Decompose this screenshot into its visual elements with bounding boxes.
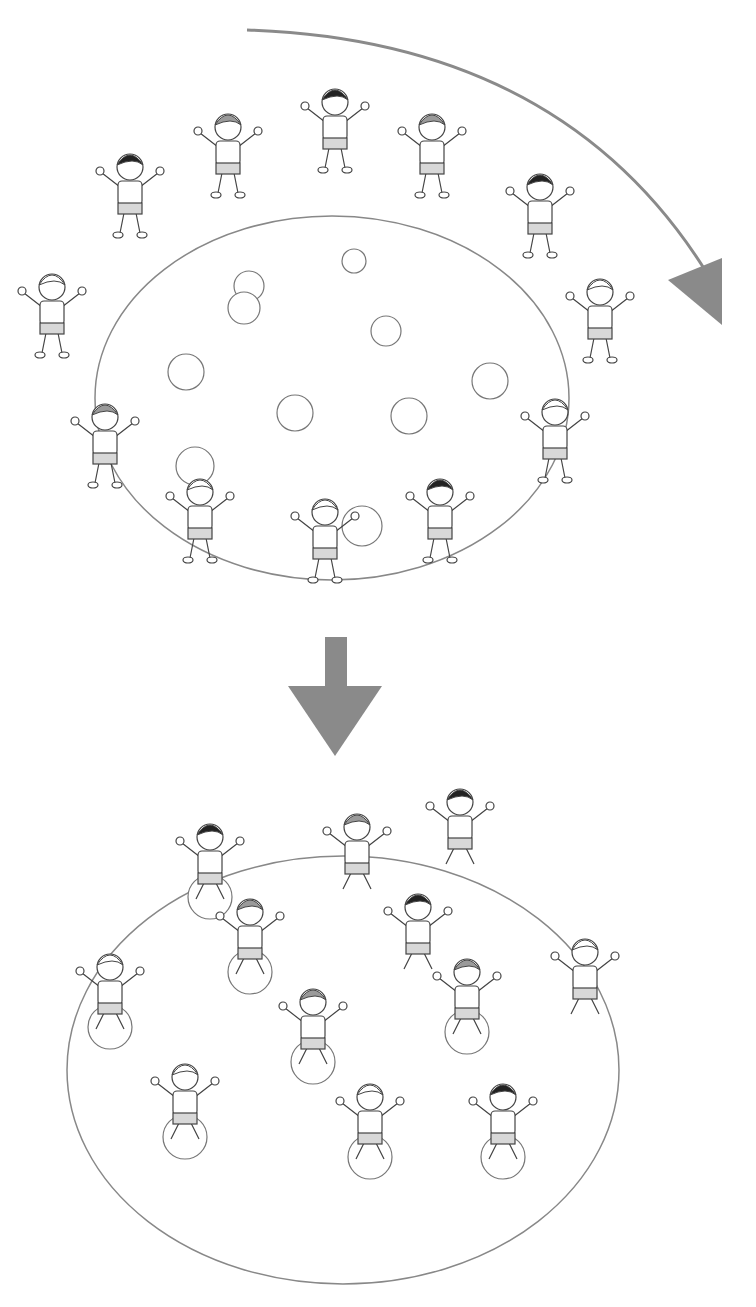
shoe xyxy=(523,252,533,258)
child-figure xyxy=(323,814,391,889)
shoe xyxy=(538,477,548,483)
ball-icon xyxy=(371,316,401,346)
hand xyxy=(458,127,466,135)
legs xyxy=(422,173,442,193)
hand xyxy=(339,1002,347,1010)
child-figure xyxy=(566,279,634,363)
shorts xyxy=(323,138,347,149)
hand xyxy=(76,967,84,975)
shirt xyxy=(543,426,567,450)
scene-circle-standing xyxy=(18,89,634,583)
legs xyxy=(343,873,371,889)
scene-sitting-on-balls xyxy=(67,789,619,1284)
shorts xyxy=(98,1003,122,1014)
shorts xyxy=(455,1008,479,1019)
shoe xyxy=(137,232,147,238)
hand xyxy=(521,412,529,420)
hand xyxy=(18,287,26,295)
shorts xyxy=(238,948,262,959)
shoe xyxy=(207,557,217,563)
ball-icon xyxy=(176,447,214,485)
legs xyxy=(590,338,610,358)
ball-icon xyxy=(472,363,508,399)
shoe xyxy=(607,357,617,363)
hand xyxy=(291,512,299,520)
hand xyxy=(396,1097,404,1105)
shirt xyxy=(323,116,347,140)
shirt xyxy=(358,1111,382,1135)
shirt xyxy=(93,431,117,455)
shirt xyxy=(428,506,452,530)
hand xyxy=(466,492,474,500)
shorts xyxy=(573,988,597,999)
child-figure xyxy=(521,399,589,483)
curved-arrow-icon xyxy=(247,30,705,270)
hand xyxy=(166,492,174,500)
legs xyxy=(95,463,115,483)
hand xyxy=(131,417,139,425)
shoe xyxy=(59,352,69,358)
hand xyxy=(323,827,331,835)
ball-icon xyxy=(228,292,260,324)
shorts xyxy=(406,943,430,954)
legs xyxy=(430,538,450,558)
shorts xyxy=(420,163,444,174)
circle-boundary xyxy=(67,856,619,1284)
child-figure xyxy=(426,789,494,864)
shoe xyxy=(415,192,425,198)
shoe xyxy=(562,477,572,483)
shoe xyxy=(113,232,123,238)
shorts xyxy=(93,453,117,464)
shorts xyxy=(40,323,64,334)
hand xyxy=(611,952,619,960)
hand xyxy=(211,1077,219,1085)
child-figure xyxy=(433,959,501,1054)
shoe xyxy=(583,357,593,363)
hand xyxy=(194,127,202,135)
hand xyxy=(151,1077,159,1085)
shorts xyxy=(301,1038,325,1049)
legs xyxy=(120,213,140,233)
shirt xyxy=(573,966,597,990)
shorts xyxy=(313,548,337,559)
hand xyxy=(433,972,441,980)
shirt xyxy=(118,181,142,205)
shoe xyxy=(547,252,557,258)
hand xyxy=(406,492,414,500)
legs xyxy=(404,953,432,969)
hand xyxy=(506,187,514,195)
shorts xyxy=(528,223,552,234)
child-figure xyxy=(398,114,466,198)
shoe xyxy=(211,192,221,198)
hand xyxy=(493,972,501,980)
shorts xyxy=(345,863,369,874)
child-figure xyxy=(18,274,86,358)
down-arrow-head-icon xyxy=(288,686,382,756)
child-figure xyxy=(76,954,144,1049)
shorts xyxy=(216,163,240,174)
curved-arrow-head-icon xyxy=(668,258,722,325)
shorts xyxy=(198,873,222,884)
hand xyxy=(236,837,244,845)
ball-icon xyxy=(168,354,204,390)
shoe xyxy=(439,192,449,198)
hand xyxy=(176,837,184,845)
legs xyxy=(190,538,210,558)
hand xyxy=(383,827,391,835)
child-figure xyxy=(384,894,452,969)
shirt xyxy=(345,841,369,865)
shorts xyxy=(543,448,567,459)
hand xyxy=(581,412,589,420)
child-figure xyxy=(406,479,474,563)
child-figure xyxy=(336,1084,404,1179)
hand xyxy=(444,907,452,915)
ball-icon xyxy=(342,249,366,273)
shorts xyxy=(491,1133,515,1144)
child-figure xyxy=(166,479,234,563)
child-figure xyxy=(194,114,262,198)
shoe xyxy=(318,167,328,173)
child-figure xyxy=(216,899,284,994)
child-figure xyxy=(71,404,139,488)
shirt xyxy=(198,851,222,875)
shirt xyxy=(528,201,552,225)
